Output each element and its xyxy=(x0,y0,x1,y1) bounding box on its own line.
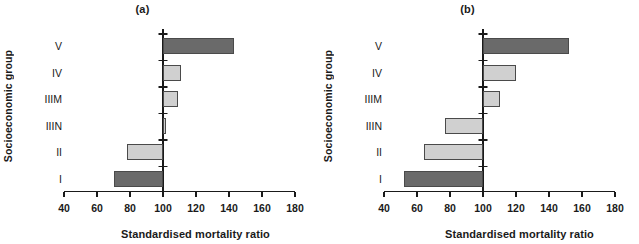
panel-a-x-axis-line xyxy=(64,191,295,192)
panel-a-x-tick xyxy=(162,192,163,197)
panel-b-x-tick xyxy=(383,192,384,197)
bar-v xyxy=(483,38,569,54)
panel-b-x-tick-label: 40 xyxy=(378,202,390,214)
panel-a-x-tick-label: 180 xyxy=(286,202,304,214)
panel-a-x-tick-label: 100 xyxy=(154,202,172,214)
panel-b-x-tick-label: 60 xyxy=(411,202,423,214)
panel-a-x-tick-label: 80 xyxy=(124,202,136,214)
bar-iv xyxy=(483,65,516,81)
panel-a-category-label-iv: IV xyxy=(18,67,62,78)
panel-a-x-tick-label: 160 xyxy=(253,202,271,214)
panel-a-x-tick xyxy=(195,192,196,197)
bar-iiin xyxy=(445,118,483,134)
panel-a-x-tick-label: 140 xyxy=(220,202,238,214)
figure-two-panel-bar-charts: (a) Socioeconomic group IIIIIINIIIMIVV 4… xyxy=(0,0,639,244)
panel-a-y-tick xyxy=(159,33,168,35)
panel-b-category-label-v: V xyxy=(338,41,382,52)
panel-b-y-tick xyxy=(479,86,488,88)
panel-b-x-tick xyxy=(416,192,417,197)
panel-b-x-tick-label: 120 xyxy=(507,202,525,214)
bar-v xyxy=(163,38,234,54)
panel-a-y-tick xyxy=(159,139,168,141)
panel-a-x-tick xyxy=(294,192,295,197)
panel-a-x-tick-label: 120 xyxy=(187,202,205,214)
panel-b-x-tick-label: 160 xyxy=(573,202,591,214)
panel-a-x-tick xyxy=(63,192,64,197)
panel-a-category-label-v: V xyxy=(18,41,62,52)
panel-b-category-label-ii: II xyxy=(338,147,382,158)
panel-b-category-label-iiin: IIIN xyxy=(338,120,382,131)
panel-b-x-tick-label: 140 xyxy=(540,202,558,214)
panel-a-y-tick xyxy=(159,86,168,88)
panel-b-x-axis-label: Standardised mortality ratio xyxy=(320,228,639,240)
panel-b-y-tick xyxy=(479,60,488,62)
panel-a-plot-area: 406080100120140160180 xyxy=(64,33,295,192)
panel-a-y-tick xyxy=(159,60,168,62)
panel-a-x-tick xyxy=(129,192,130,197)
bar-iiim xyxy=(483,91,500,107)
panel-b-y-axis-label: Socioeconomic group xyxy=(322,50,336,162)
panel-a-y-tick xyxy=(159,166,168,168)
panel-a-x-tick-label: 40 xyxy=(58,202,70,214)
panel-b-category-label-iiim: IIIM xyxy=(338,94,382,105)
panel-b-title: (b) xyxy=(308,3,627,15)
panel-b-category-labels: IIIIIINIIIMIVV xyxy=(338,33,382,192)
panel-b-x-tick xyxy=(614,192,615,197)
panel-a-x-tick xyxy=(261,192,262,197)
panel-a-x-tick-label: 60 xyxy=(91,202,103,214)
panel-b-x-tick-label: 180 xyxy=(606,202,624,214)
bar-iv xyxy=(163,65,181,81)
panel-b: (b) Socioeconomic group IIIIIINIIIMIVV 4… xyxy=(320,0,639,244)
panel-a-y-axis-label: Socioeconomic group xyxy=(2,50,16,162)
panel-a-x-tick xyxy=(96,192,97,197)
panel-b-category-label-iv: IV xyxy=(338,67,382,78)
panel-b-x-tick xyxy=(581,192,582,197)
panel-b-x-tick xyxy=(548,192,549,197)
panel-b-x-tick xyxy=(482,192,483,197)
panel-a-category-label-i: I xyxy=(18,173,62,184)
bar-i xyxy=(404,171,483,187)
panel-a-x-axis-label: Standardised mortality ratio xyxy=(0,228,355,240)
panel-b-x-tick-label: 100 xyxy=(474,202,492,214)
panel-a-category-label-iiin: IIIN xyxy=(18,120,62,131)
panel-a-category-labels: IIIIIINIIIMIVV xyxy=(18,33,62,192)
panel-a-title: (a) xyxy=(0,3,302,15)
panel-b-x-tick-label: 80 xyxy=(444,202,456,214)
panel-a-x-tick xyxy=(228,192,229,197)
bar-i xyxy=(114,171,164,187)
panel-a-category-label-ii: II xyxy=(18,147,62,158)
panel-b-y-tick xyxy=(479,139,488,141)
panel-a: (a) Socioeconomic group IIIIIINIIIMIVV 4… xyxy=(0,0,319,244)
bar-iiin xyxy=(163,118,166,134)
bar-ii xyxy=(127,144,163,160)
panel-b-category-label-i: I xyxy=(338,173,382,184)
bar-ii xyxy=(424,144,483,160)
panel-a-y-tick xyxy=(159,113,168,115)
panel-a-category-label-iiim: IIIM xyxy=(18,94,62,105)
panel-b-y-tick xyxy=(479,166,488,168)
panel-b-x-axis-line xyxy=(384,191,615,192)
panel-b-y-tick xyxy=(479,113,488,115)
panel-b-x-tick xyxy=(515,192,516,197)
panel-b-plot-area: 406080100120140160180 xyxy=(384,33,615,192)
bar-iiim xyxy=(163,91,178,107)
panel-b-x-tick xyxy=(449,192,450,197)
panel-b-y-tick xyxy=(479,33,488,35)
